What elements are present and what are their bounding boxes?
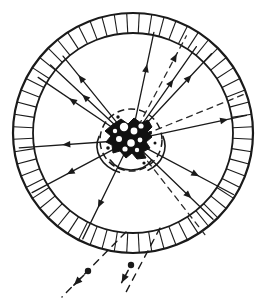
core-blob-notch (138, 123, 143, 128)
core-blob-notch (113, 129, 117, 133)
core-blob-speck (142, 161, 145, 164)
core-blob-notch (135, 148, 139, 152)
core-blob-notch (120, 123, 128, 131)
core-blob-speck (148, 131, 152, 135)
core-blob-notch (138, 138, 143, 143)
core-blob-notch (131, 128, 138, 135)
figure-root (0, 0, 269, 308)
escape-track-left-dot (85, 268, 91, 274)
core-blob-speck (116, 115, 119, 118)
core-blob-notch (116, 136, 122, 142)
core-blob-notch (122, 146, 127, 151)
core-blob-notch (127, 139, 135, 147)
radial-emission-diagram-canvas (0, 0, 269, 308)
core-blob-speck (154, 142, 157, 145)
escape-track-right-dot (128, 262, 134, 268)
core-blob-speck (106, 146, 110, 150)
